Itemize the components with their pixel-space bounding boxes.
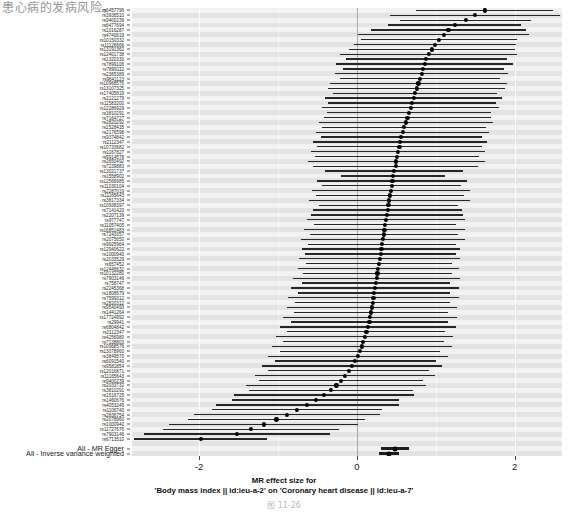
- snp-point-estimate: [416, 81, 420, 85]
- snp-point-estimate: [374, 276, 378, 280]
- y-axis-tick: [127, 283, 130, 284]
- snp-point-estimate: [353, 359, 357, 363]
- y-axis-tick: [127, 312, 130, 313]
- y-axis-tick: [127, 307, 130, 308]
- snp-point-estimate: [473, 13, 477, 17]
- snp-point-estimate: [380, 242, 384, 246]
- x-axis-title: MR effect size for 'Body mass index || i…: [0, 476, 568, 495]
- snp-point-estimate: [388, 193, 392, 197]
- snp-point-estimate: [437, 38, 441, 42]
- snp-point-estimate: [363, 335, 367, 339]
- snp-point-estimate: [390, 179, 394, 183]
- x-axis-title-line2: 'Body mass index || id:ieu-a-2' on 'Coro…: [0, 486, 568, 496]
- snp-point-estimate: [407, 111, 411, 115]
- y-axis-tick: [127, 29, 130, 30]
- y-axis-tick: [127, 200, 130, 201]
- y-axis-tick: [127, 161, 130, 162]
- y-axis-tick: [127, 73, 130, 74]
- snp-point-estimate: [419, 72, 423, 76]
- snp-point-estimate: [464, 18, 468, 22]
- y-axis-tick: [127, 176, 130, 177]
- y-axis-tick: [127, 375, 130, 376]
- y-axis-tick: [127, 64, 130, 65]
- y-axis-tick: [127, 356, 130, 357]
- snp-point-estimate: [386, 203, 390, 207]
- snp-point-estimate: [249, 427, 253, 431]
- snp-point-estimate: [392, 169, 396, 173]
- x-axis: -202: [132, 456, 562, 478]
- snp-point-estimate: [423, 62, 427, 66]
- snp-point-estimate: [446, 28, 450, 32]
- y-axis-tick: [127, 414, 130, 415]
- plot-panel: [132, 8, 562, 456]
- y-axis-tick: [127, 278, 130, 279]
- y-axis-tick: [127, 438, 130, 439]
- snp-point-estimate: [382, 232, 386, 236]
- snp-point-estimate: [372, 291, 376, 295]
- y-axis-tick: [127, 132, 130, 133]
- x-axis-tick: [357, 456, 358, 460]
- y-axis-tick: [127, 361, 130, 362]
- y-axis-tick: [127, 25, 130, 26]
- snp-point-estimate: [350, 364, 354, 368]
- y-axis-tick: [127, 297, 130, 298]
- y-axis-tick: [127, 78, 130, 79]
- snp-point-estimate: [262, 422, 266, 426]
- y-axis-tick: [127, 351, 130, 352]
- y-axis-tick: [127, 322, 130, 323]
- snp-point-estimate: [402, 125, 406, 129]
- y-axis-tick: [127, 137, 130, 138]
- snp-point-estimate: [385, 213, 389, 217]
- snp-point-estimate: [433, 42, 437, 46]
- y-axis-tick: [127, 370, 130, 371]
- y-axis-tick: [127, 39, 130, 40]
- snp-point-estimate: [364, 330, 368, 334]
- x-axis-tick: [199, 456, 200, 460]
- snp-point-estimate: [398, 140, 402, 144]
- forest-plot-figure: rs6457796rs3936510rs9400239rs6477694rs10…: [0, 0, 568, 515]
- snp-point-estimate: [347, 369, 351, 373]
- y-axis-tick: [127, 292, 130, 293]
- x-axis-tick-label: 2: [512, 461, 517, 472]
- y-axis-tick: [127, 336, 130, 337]
- y-axis-tick: [127, 244, 130, 245]
- y-axis-tick: [127, 141, 130, 142]
- y-axis-tick: [127, 253, 130, 254]
- snp-point-estimate: [374, 281, 378, 285]
- snp-point-estimate: [274, 417, 278, 421]
- y-axis-tick: [127, 219, 130, 220]
- y-axis-tick: [127, 195, 130, 196]
- y-axis-tick: [127, 385, 130, 386]
- snp-point-estimate: [399, 135, 403, 139]
- snp-point-estimate: [412, 96, 416, 100]
- snp-point-estimate: [285, 413, 289, 417]
- y-axis-tick: [127, 88, 130, 89]
- y-axis-tick: [127, 83, 130, 84]
- snp-point-estimate: [378, 257, 382, 261]
- y-axis-tick: [127, 404, 130, 405]
- snp-point-estimate: [366, 325, 370, 329]
- y-axis-tick: [127, 239, 130, 240]
- snp-point-estimate: [389, 184, 393, 188]
- y-axis-tick: [127, 122, 130, 123]
- snp-point-estimate: [334, 383, 338, 387]
- snp-point-estimate: [396, 150, 400, 154]
- snp-point-estimate: [386, 208, 390, 212]
- snp-point-estimate: [397, 145, 401, 149]
- snp-point-estimate: [393, 164, 397, 168]
- snp-point-estimate: [295, 408, 299, 412]
- y-axis-tick: [127, 395, 130, 396]
- y-axis-tick: [127, 68, 130, 69]
- snp-point-estimate: [387, 198, 391, 202]
- snp-point-estimate: [483, 8, 487, 12]
- snp-point-estimate: [343, 374, 347, 378]
- y-axis-tick: [127, 234, 130, 235]
- snp-point-estimate: [377, 262, 381, 266]
- y-axis-tick: [127, 190, 130, 191]
- snp-point-estimate: [418, 77, 422, 81]
- y-axis-tick: [127, 34, 130, 35]
- figure-caption: 图 11-26: [0, 499, 568, 510]
- y-axis-tick: [127, 146, 130, 147]
- y-axis-tick: [127, 112, 130, 113]
- y-axis-tick: [127, 249, 130, 250]
